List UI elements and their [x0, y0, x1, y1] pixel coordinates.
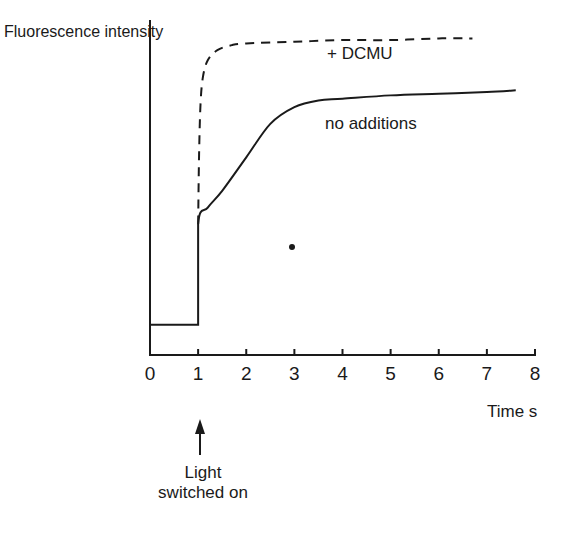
x-tick-label: 4 — [333, 363, 353, 385]
x-axis-label: Time s — [487, 402, 537, 421]
x-tick-label: 1 — [188, 363, 208, 385]
x-tick-label: 7 — [477, 363, 497, 385]
light-switched-on-annotation: Light switched on — [158, 463, 248, 503]
stray-ink-mark — [289, 244, 295, 250]
x-tick-label: 3 — [284, 363, 304, 385]
x-tick-label: 8 — [525, 363, 545, 385]
x-tick-label: 2 — [236, 363, 256, 385]
x-tick-label: 6 — [429, 363, 449, 385]
chart-plot — [0, 0, 563, 552]
x-tick-label: 0 — [140, 363, 160, 385]
light-arrow-icon — [195, 419, 205, 455]
no-additions-series-label: no additions — [325, 114, 417, 133]
dcmu-series-label: + DCMU — [327, 44, 393, 63]
x-tick-label: 5 — [381, 363, 401, 385]
